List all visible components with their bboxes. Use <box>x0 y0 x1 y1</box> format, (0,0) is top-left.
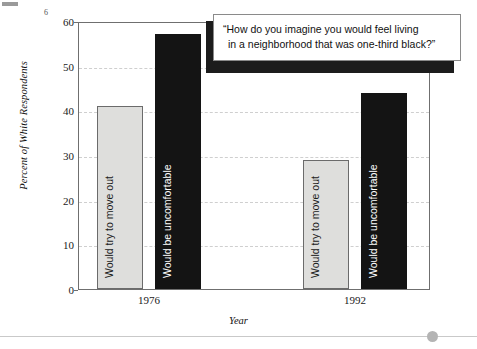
y-tick-50: 50 <box>44 61 74 73</box>
y-tick-10: 10 <box>44 239 74 251</box>
bar-1992-would-be-uncomfortable[interactable]: Would be uncomfortable <box>361 93 407 290</box>
y-tick-mark-0 <box>74 290 78 291</box>
callout-line-2: in a neighborhood that was one-third bla… <box>223 37 451 52</box>
y-tick-20: 20 <box>44 195 74 207</box>
x-tick-1992: 1992 <box>315 294 395 306</box>
x-tick-1976: 1976 <box>109 294 189 306</box>
bar-label: Would be uncomfortable <box>161 164 173 278</box>
figure: 6 60 50 40 30 20 10 0 Percent of White R… <box>0 0 477 349</box>
callout-line-1: “How do you imagine you would feel livin… <box>223 22 451 37</box>
y-axis-label: Percent of White Respondents <box>18 21 29 231</box>
footer-dot <box>427 331 438 342</box>
bar-1992-would-try-to-move-out[interactable]: Would try to move out <box>303 160 349 290</box>
y-tick-30: 30 <box>44 150 74 162</box>
page-corner-mark <box>2 2 18 6</box>
callout-box: “How do you imagine you would feel livin… <box>213 14 461 61</box>
bar-1976-would-try-to-move-out[interactable]: Would try to move out <box>97 106 143 289</box>
footer-divider <box>0 336 477 337</box>
y-axis-ticks: 60 50 40 30 20 10 0 <box>40 22 74 290</box>
bar-label: Would be uncomfortable <box>367 164 379 278</box>
bar-label: Would try to move out <box>103 176 115 278</box>
bar-label: Would try to move out <box>309 176 321 278</box>
x-axis-label: Year <box>0 315 477 326</box>
y-tick-0: 0 <box>44 284 74 296</box>
y-tick-40: 40 <box>44 105 74 117</box>
y-tick-60: 60 <box>44 16 74 28</box>
bar-1976-would-be-uncomfortable[interactable]: Would be uncomfortable <box>155 34 201 289</box>
